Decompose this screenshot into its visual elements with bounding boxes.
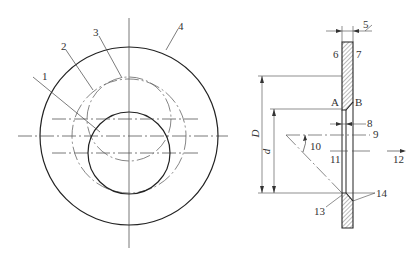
- leader-4: [166, 29, 178, 50]
- technical-drawing: [0, 0, 420, 260]
- label-13: 13: [314, 206, 325, 217]
- label-11: 11: [330, 154, 341, 165]
- arrow-icon: [260, 186, 264, 193]
- label-7: 7: [356, 49, 362, 60]
- lower-section: [342, 193, 353, 228]
- label-5: 5: [363, 19, 369, 30]
- label-A: A: [331, 97, 339, 108]
- label-14: 14: [376, 188, 387, 199]
- label-10: 10: [310, 141, 321, 152]
- arrow-icon: [272, 186, 276, 193]
- label-1: 1: [42, 71, 48, 82]
- front-view: [18, 18, 228, 248]
- arrow-icon: [260, 76, 264, 83]
- leader-13: [326, 195, 342, 207]
- label-3: 3: [93, 27, 99, 38]
- label-9: 9: [373, 129, 379, 140]
- dimension-label-D: D: [250, 130, 261, 138]
- label-2: 2: [61, 41, 67, 52]
- arrow-icon: [336, 122, 342, 126]
- label-12: 12: [393, 154, 404, 165]
- label-8: 8: [367, 118, 373, 129]
- dimension-label-d: d: [261, 149, 272, 155]
- label-6: 6: [333, 49, 339, 60]
- leader-3: [99, 36, 122, 78]
- upper-section: [342, 42, 353, 110]
- arrow-icon: [272, 109, 276, 116]
- arrow-icon: [336, 29, 342, 33]
- arrow-icon: [353, 29, 359, 33]
- label-4: 4: [178, 21, 184, 32]
- arrow-icon: [346, 122, 352, 126]
- arrow-icon: [303, 135, 307, 141]
- leader-14b: [353, 193, 375, 201]
- label-B: B: [355, 97, 362, 108]
